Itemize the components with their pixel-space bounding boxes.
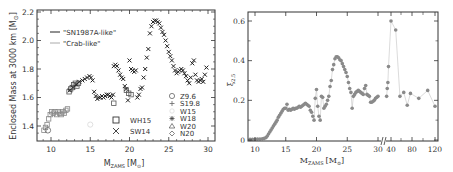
y-tick-label: 0.6 (233, 17, 245, 26)
right-connecting-line (250, 21, 435, 139)
legend-label-wh15: WH15 (130, 117, 151, 125)
svg-text:MZAMS[M⊙]: MZAMS[M⊙] (104, 159, 145, 169)
legend-wh15: WH15 (113, 117, 151, 125)
right-plot-frame (248, 12, 438, 141)
legend-sn1987a: "SN1987A-like" (50, 29, 116, 37)
right-x-axis-label: MZAMS[M⊙] (300, 156, 344, 166)
right-axis-ticks: 1015202530408012000.20.40.6 (233, 12, 442, 154)
asterisk-marker-icon (170, 116, 175, 121)
svg-text:MZAMS[M⊙]: MZAMS[M⊙] (300, 156, 344, 166)
legend-label-sw14: SW14 (130, 128, 151, 136)
x-tick-label: 10 (250, 145, 260, 154)
legend-crab: "Crab-like" (50, 40, 100, 48)
figure: 10152025301.41.61.82.02.2 Enclosed Mass … (0, 0, 453, 172)
x-tick-label: 40 (386, 145, 396, 154)
x-tick-label: 15 (85, 145, 95, 154)
x-tick-label: 30 (203, 145, 213, 154)
legend-models: Z9.6 S19.8 W15 W18 W20 N20 (169, 93, 200, 139)
legend-sw14: SW14 (113, 128, 151, 136)
circle-marker-icon (169, 93, 174, 98)
left-y-axis-label: Enclosed Mass at 3000 km [M⊙] (9, 12, 19, 140)
y-tick-label: 1.6 (22, 93, 34, 102)
x-tick-label: 20 (312, 145, 322, 154)
x-tick-label: 120 (428, 145, 443, 154)
svg-text:Enclosed Mass at 3000 km [M⊙]: Enclosed Mass at 3000 km [M⊙] (9, 12, 19, 140)
y-tick-label: 1.8 (22, 65, 34, 74)
x-tick-label: 25 (164, 145, 174, 154)
x-tick-label: 15 (281, 145, 291, 154)
right-data-points (248, 19, 437, 141)
y-tick-label: 1.4 (22, 122, 34, 131)
left-chart-enclosed-mass: 10152025301.41.61.82.02.2 Enclosed Mass … (0, 0, 228, 172)
x-tick-label: 25 (342, 145, 352, 154)
x-tick-label: 30 (373, 145, 383, 154)
x-tick-label: 10 (46, 145, 56, 154)
x-marker-icon (113, 128, 119, 134)
x-tick-label: 80 (407, 145, 417, 154)
legend-label-n20: N20 (180, 130, 194, 138)
light-circle-marker-icon (170, 109, 174, 113)
x-tick-label: 20 (125, 145, 135, 154)
y-tick-label: 2.2 (22, 8, 34, 17)
right-axis-break (381, 137, 386, 145)
y-tick-label: 2.0 (22, 36, 34, 45)
y-tick-label: 0.2 (233, 96, 245, 105)
legend-label-crab: "Crab-like" (63, 40, 100, 48)
triangle-marker-icon (169, 124, 175, 129)
square-marker-icon (113, 117, 119, 123)
diamond-marker-icon (170, 131, 175, 136)
y-tick-label: 0 (240, 136, 245, 145)
left-x-axis-label: MZAMS[M⊙] (104, 159, 145, 169)
plus-marker-icon (170, 101, 175, 106)
legend-label-sn1987a: "SN1987A-like" (63, 29, 116, 37)
y-tick-label: 0.4 (233, 56, 245, 65)
